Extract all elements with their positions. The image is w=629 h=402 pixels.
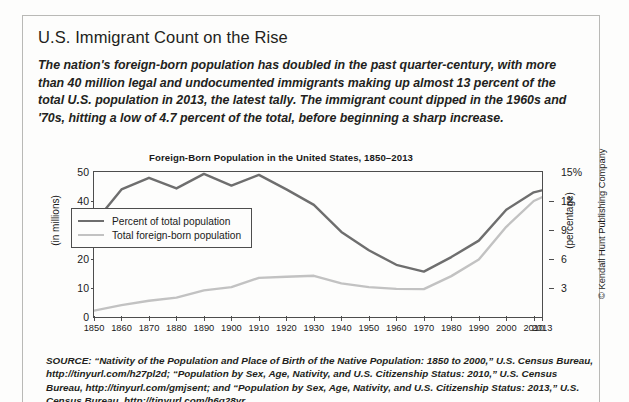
x-tick-label: 1910 [249,323,270,333]
y-tick-mark-right [549,201,554,202]
x-tick-label: 1860 [111,323,132,333]
x-tick-mark [286,316,287,321]
x-tick-label: 1970 [413,323,434,333]
x-tick-mark [451,316,452,321]
x-tick-mark [396,316,397,321]
legend-label: Total foreign-born population [112,230,241,241]
legend-item-2: Total foreign-born population [78,228,241,242]
x-tick-label: 1880 [166,323,187,333]
chart-title: Foreign-Born Population in the United St… [31,152,531,163]
y-tick-label-right: 12 [561,195,573,207]
legend-swatch-icon [78,234,104,236]
legend-label: Percent of total population [112,216,230,227]
x-tick-mark [534,316,535,321]
x-tick-mark [369,316,370,321]
x-tick-mark [176,316,177,321]
x-tick-mark [341,316,342,321]
page-root: U.S. Immigrant Count on the Rise The nat… [0,0,629,402]
y-tick-label-left: 20 [77,253,89,265]
x-tick-label: 1940 [331,323,352,333]
source-note: SOURCE: “Nativity of the Population and … [46,354,594,402]
x-tick-label: 1990 [468,323,489,333]
x-tick-label: 1870 [139,323,160,333]
y-tick-label-right: 3 [561,282,567,294]
x-tick-mark [149,316,150,321]
x-tick-mark [542,316,543,321]
x-tick-label: 2013 [532,323,553,333]
x-tick-mark [506,316,507,321]
legend-item-1: Percent of total population [78,214,241,228]
copyright-notice: © Kendall Hunt Publishing Company [597,109,607,299]
y-tick-label-right: 6 [561,253,567,265]
x-tick-label: 1900 [221,323,242,333]
x-tick-label: 1960 [386,323,407,333]
y-tick-label-right: 15% [561,166,582,178]
x-tick-label: 1950 [359,323,380,333]
x-tick-mark [94,316,95,321]
y-tick-mark-right [549,230,554,231]
x-tick-label: 1980 [441,323,462,333]
x-tick-label: 1920 [276,323,297,333]
x-axis-ticks: 1850186018701880189019001910192019301940… [93,321,543,335]
y-tick-mark-right [549,259,554,260]
x-tick-mark [204,316,205,321]
x-tick-mark [424,316,425,321]
x-tick-mark [231,316,232,321]
y-axis-ticks-right: 3691215% [549,171,589,318]
y-tick-mark-right [549,288,554,289]
x-tick-label: 1930 [304,323,325,333]
y-tick-label-left: 0 [83,311,89,323]
legend-swatch-icon [78,220,104,222]
x-tick-mark [314,316,315,321]
chart-figure: Foreign-Born Population in the United St… [31,149,597,354]
y-tick-label-left: 40 [77,195,89,207]
x-tick-mark [121,316,122,321]
chart-legend: Percent of total populationTotal foreign… [71,208,252,248]
y-tick-label-left: 10 [77,282,89,294]
article-card: U.S. Immigrant Count on the Rise The nat… [22,15,600,402]
article-deck: The nation's foreign-born population has… [38,57,578,127]
x-tick-label: 1890 [194,323,215,333]
x-tick-label: 2000 [496,323,517,333]
x-tick-mark [259,316,260,321]
y-tick-label-left: 50 [77,166,89,178]
x-tick-mark [479,316,480,321]
y-tick-label-right: 9 [561,224,567,236]
page-title: U.S. Immigrant Count on the Rise [38,28,288,47]
x-tick-label: 1850 [84,323,105,333]
